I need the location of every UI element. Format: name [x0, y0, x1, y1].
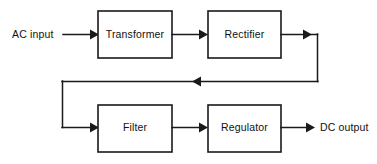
- arrowhead-feedback-bus: [192, 77, 201, 87]
- block-regulator[interactable]: Regulator: [208, 105, 281, 152]
- arrowhead-into-regulator: [199, 123, 208, 133]
- block-filter-label: Filter: [123, 121, 148, 133]
- block-rectifier[interactable]: Rectifier: [208, 11, 281, 58]
- connector-transformer-to-rectifier: [172, 30, 208, 40]
- connector-filter-to-regulator: [172, 123, 208, 133]
- arrowhead-into-rectifier: [199, 30, 208, 40]
- block-diagram: Transformer Rectifier: [0, 0, 377, 164]
- block-transformer[interactable]: Transformer: [98, 11, 172, 58]
- connector-regulator-to-output: [281, 123, 315, 133]
- block-regulator-label: Regulator: [221, 121, 268, 133]
- diagram-canvas: Transformer Rectifier: [0, 0, 377, 164]
- label-dc-output: DC output: [320, 121, 369, 133]
- label-ac-input: AC input: [12, 28, 53, 40]
- block-rectifier-label: Rectifier: [225, 28, 265, 40]
- block-filter[interactable]: Filter: [98, 105, 172, 152]
- connector-input-to-transformer: [63, 30, 99, 40]
- arrowhead-dc-output: [306, 123, 315, 133]
- block-transformer-label: Transformer: [106, 28, 165, 40]
